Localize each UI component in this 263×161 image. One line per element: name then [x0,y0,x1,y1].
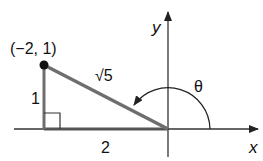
right-angle-marker [44,113,60,129]
x-axis-label: x [248,138,258,157]
vertical-side-label: 1 [31,90,40,107]
triangle-diagram: (−2, 1) √5 1 2 θ y x [0,0,263,161]
angle-label: θ [194,78,203,95]
hypotenuse-label: √5 [95,67,113,84]
point-label: (−2, 1) [10,40,57,57]
y-axis-label: y [151,18,162,37]
point-marker [40,61,49,70]
horizontal-side-label: 2 [101,139,110,156]
